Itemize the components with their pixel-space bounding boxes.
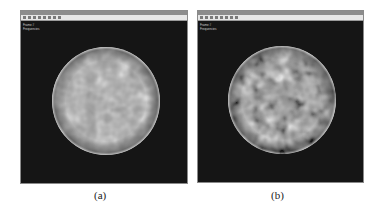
figure-caption-a: (a) [94, 189, 106, 201]
toolbar-icon[interactable] [230, 16, 233, 19]
render-viewport[interactable]: Frame # Frequencies [21, 21, 187, 183]
overlay-line: Frequencies [200, 27, 217, 31]
overlay-line: Frequencies [23, 27, 40, 31]
toolbar-icon[interactable] [220, 16, 223, 19]
textured-sphere [228, 46, 336, 154]
toolbar-icon[interactable] [200, 16, 203, 19]
render-viewport[interactable]: Frame # Frequencies [198, 21, 363, 182]
toolbar-icon[interactable] [225, 16, 228, 19]
toolbar-icon[interactable] [33, 16, 36, 19]
toolbar-icon[interactable] [23, 16, 26, 19]
figure-caption-b: (b) [271, 189, 284, 201]
toolbar-icon[interactable] [235, 16, 238, 19]
toolbar-icon[interactable] [205, 16, 208, 19]
viewport-overlay-text: Frame # Frequencies [200, 23, 217, 31]
toolbar-icon[interactable] [58, 16, 61, 19]
toolbar-icon[interactable] [38, 16, 41, 19]
viewer-window-a: Frame # Frequencies [20, 10, 188, 184]
toolbar-icon[interactable] [53, 16, 56, 19]
toolbar-icon[interactable] [43, 16, 46, 19]
toolbar-icon[interactable] [215, 16, 218, 19]
toolbar-icon[interactable] [28, 16, 31, 19]
toolbar-icon[interactable] [210, 16, 213, 19]
toolbar-icon[interactable] [48, 16, 51, 19]
viewer-window-b: Frame # Frequencies [197, 10, 364, 183]
textured-sphere [52, 47, 160, 155]
viewport-overlay-text: Frame # Frequencies [23, 23, 40, 31]
